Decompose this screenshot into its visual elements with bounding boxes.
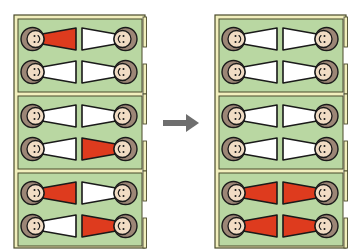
face-icon [228, 31, 245, 48]
face-icon [315, 218, 332, 235]
face-icon [315, 31, 332, 48]
face-icon [114, 185, 131, 202]
room-after-1 [219, 17, 348, 94]
face-icon [228, 108, 245, 125]
door-post [143, 141, 147, 171]
face-icon [27, 64, 44, 81]
room-diagram [0, 0, 363, 249]
face-icon [27, 185, 44, 202]
door-post [143, 171, 147, 201]
door-post [344, 64, 348, 94]
door-post [344, 171, 348, 201]
door-post [143, 218, 147, 248]
arrow-right-icon [163, 114, 199, 132]
building-after [215, 15, 351, 248]
room-before-2 [18, 94, 147, 171]
face-icon [315, 185, 332, 202]
face-icon [228, 141, 245, 158]
door-post [143, 17, 147, 47]
door-post [344, 141, 348, 171]
door-post [344, 94, 348, 124]
room-after-2 [219, 94, 348, 171]
face-icon [27, 31, 44, 48]
face-icon [228, 64, 245, 81]
face-icon [114, 218, 131, 235]
face-icon [315, 108, 332, 125]
face-icon [228, 185, 245, 202]
room-before-1 [18, 17, 147, 94]
face-icon [315, 64, 332, 81]
face-icon [114, 141, 131, 158]
door-post [143, 94, 147, 124]
face-icon [228, 218, 245, 235]
room-after-3 [219, 171, 348, 248]
door-post [344, 17, 348, 47]
face-icon [27, 141, 44, 158]
face-icon [27, 218, 44, 235]
face-icon [114, 108, 131, 125]
face-icon [114, 31, 131, 48]
face-icon [315, 141, 332, 158]
face-icon [27, 108, 44, 125]
building-before [14, 15, 150, 248]
door-post [143, 64, 147, 94]
room-before-3 [18, 171, 147, 248]
door-post [344, 218, 348, 248]
face-icon [114, 64, 131, 81]
